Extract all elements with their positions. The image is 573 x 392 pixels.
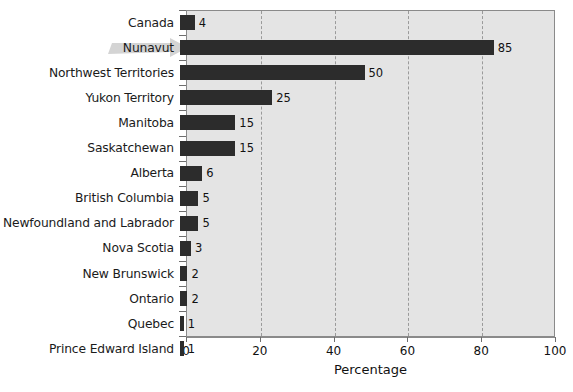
bar-value-label: 15 bbox=[239, 116, 254, 130]
table-row: Quebec 1 bbox=[0, 311, 573, 336]
table-row: New Brunswick 2 bbox=[0, 261, 573, 286]
x-axis-tick-label: 60 bbox=[400, 344, 415, 358]
bar bbox=[180, 166, 202, 181]
y-axis-tick bbox=[179, 60, 186, 61]
category-label: Alberta bbox=[0, 166, 180, 180]
bar-value-label: 2 bbox=[191, 292, 198, 306]
table-row: Newfoundland and Labrador 5 bbox=[0, 211, 573, 236]
table-row: British Columbia 5 bbox=[0, 186, 573, 211]
category-label: Quebec bbox=[0, 317, 180, 331]
table-row: Yukon Territory 25 bbox=[0, 85, 573, 110]
table-row: Manitoba 15 bbox=[0, 110, 573, 135]
table-row: Saskatchewan 15 bbox=[0, 136, 573, 161]
bar-value-label: 1 bbox=[188, 342, 195, 356]
category-label: Nova Scotia bbox=[0, 241, 180, 255]
y-axis-tick bbox=[179, 186, 186, 187]
bar-track: 25 bbox=[180, 85, 573, 110]
table-row: Nunavut 85 bbox=[0, 35, 573, 60]
bar-track: 1 bbox=[180, 336, 573, 361]
x-axis-tick-label: 20 bbox=[252, 344, 267, 358]
bar-track: 2 bbox=[180, 286, 573, 311]
bar-value-label: 50 bbox=[369, 66, 384, 80]
y-axis-tick bbox=[179, 236, 186, 237]
table-row: Alberta 6 bbox=[0, 161, 573, 186]
y-axis-tick bbox=[179, 311, 186, 312]
bar bbox=[180, 266, 187, 281]
bar-value-label: 4 bbox=[199, 16, 206, 30]
table-row: Ontario 2 bbox=[0, 286, 573, 311]
bar-track: 2 bbox=[180, 261, 573, 286]
x-axis-tick bbox=[334, 337, 335, 342]
bar-value-label: 85 bbox=[498, 41, 513, 55]
category-label: Manitoba bbox=[0, 116, 180, 130]
category-label: British Columbia bbox=[0, 191, 180, 205]
bar-value-label: 3 bbox=[195, 241, 202, 255]
y-axis-tick bbox=[179, 336, 186, 337]
bar bbox=[180, 316, 184, 331]
bar-track: 4 bbox=[180, 10, 573, 35]
x-axis-tick bbox=[555, 337, 556, 342]
horizontal-bar-chart: Canada 4 Nunavut 85 Northwest Territorie… bbox=[0, 0, 573, 392]
category-label: Northwest Territories bbox=[0, 66, 180, 80]
bar-track: 85 bbox=[180, 35, 573, 60]
category-label: New Brunswick bbox=[0, 267, 180, 281]
bar bbox=[180, 191, 198, 206]
bar-track: 15 bbox=[180, 136, 573, 161]
bar-track: 50 bbox=[180, 60, 573, 85]
bar bbox=[180, 141, 235, 156]
y-axis-tick bbox=[179, 35, 186, 36]
bar-track: 3 bbox=[180, 236, 573, 261]
category-label: Prince Edward Island bbox=[0, 342, 180, 356]
bar-rows: Canada 4 Nunavut 85 Northwest Territorie… bbox=[0, 10, 573, 337]
bar bbox=[180, 241, 191, 256]
bar bbox=[180, 40, 494, 55]
bar-value-label: 5 bbox=[202, 191, 209, 205]
bar bbox=[180, 341, 184, 356]
table-row: Northwest Territories 50 bbox=[0, 60, 573, 85]
x-axis-tick bbox=[260, 337, 261, 342]
y-axis-tick bbox=[179, 10, 186, 11]
bar-value-label: 25 bbox=[276, 91, 291, 105]
bar-value-label: 5 bbox=[202, 216, 209, 230]
table-row: Canada 4 bbox=[0, 10, 573, 35]
category-label: Nunavut bbox=[0, 41, 180, 55]
bar-track: 15 bbox=[180, 110, 573, 135]
x-axis-tick-label: 100 bbox=[544, 344, 567, 358]
y-axis-tick bbox=[179, 161, 186, 162]
bar-value-label: 2 bbox=[191, 267, 198, 281]
bar-value-label: 1 bbox=[188, 317, 195, 331]
y-axis-tick bbox=[179, 85, 186, 86]
category-label: Canada bbox=[0, 16, 180, 30]
x-axis-tick bbox=[407, 337, 408, 342]
x-axis-title: Percentage bbox=[186, 362, 555, 377]
x-axis-tick-label: 80 bbox=[474, 344, 489, 358]
x-axis-line bbox=[186, 337, 555, 338]
y-axis-tick bbox=[179, 136, 186, 137]
y-axis-tick bbox=[179, 286, 186, 287]
bar-value-label: 6 bbox=[206, 166, 213, 180]
x-axis-tick-label: 40 bbox=[326, 344, 341, 358]
bar-value-label: 15 bbox=[239, 141, 254, 155]
y-axis-tick bbox=[179, 211, 186, 212]
bar bbox=[180, 216, 198, 231]
category-label: Yukon Territory bbox=[0, 91, 180, 105]
bar-track: 5 bbox=[180, 211, 573, 236]
y-axis-tick bbox=[179, 110, 186, 111]
category-label: Newfoundland and Labrador bbox=[0, 216, 180, 230]
y-axis-tick bbox=[179, 261, 186, 262]
bar-track: 6 bbox=[180, 161, 573, 186]
category-label: Ontario bbox=[0, 292, 180, 306]
bar-track: 5 bbox=[180, 186, 573, 211]
table-row: Nova Scotia 3 bbox=[0, 236, 573, 261]
bar bbox=[180, 15, 195, 30]
bar-track: 1 bbox=[180, 311, 573, 336]
bar bbox=[180, 291, 187, 306]
bar bbox=[180, 65, 365, 80]
x-axis-tick bbox=[481, 337, 482, 342]
bar bbox=[180, 115, 235, 130]
bar bbox=[180, 90, 272, 105]
category-label: Saskatchewan bbox=[0, 141, 180, 155]
